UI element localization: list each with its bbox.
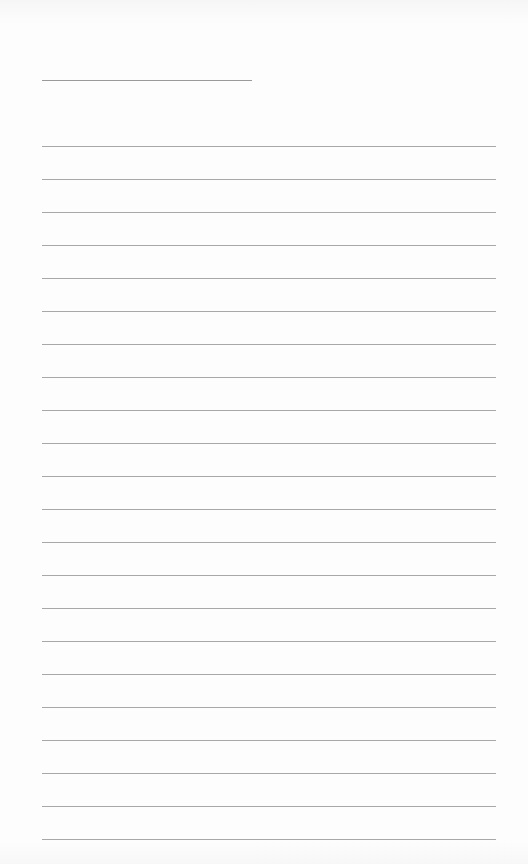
ruled-line (42, 575, 496, 576)
ruled-line (42, 146, 496, 147)
ruled-line (42, 773, 496, 774)
ruled-line (42, 806, 496, 807)
ruled-line (42, 278, 496, 279)
ruled-line (42, 443, 496, 444)
ruled-line (42, 608, 496, 609)
ruled-line (42, 212, 496, 213)
ruled-line (42, 674, 496, 675)
ruled-line (42, 344, 496, 345)
ruled-line (42, 740, 496, 741)
lined-paper-page (0, 0, 528, 864)
header-name-line (42, 80, 252, 81)
ruled-line (42, 179, 496, 180)
ruled-line (42, 410, 496, 411)
ruled-line (42, 641, 496, 642)
ruled-line (42, 542, 496, 543)
ruled-line (42, 707, 496, 708)
ruled-line (42, 245, 496, 246)
ruled-line (42, 839, 496, 840)
ruled-line (42, 509, 496, 510)
ruled-line (42, 476, 496, 477)
ruled-line (42, 311, 496, 312)
ruled-line (42, 377, 496, 378)
